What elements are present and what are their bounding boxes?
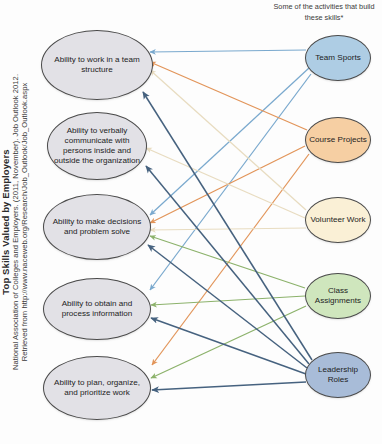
node-label: Leadership Roles bbox=[306, 365, 370, 385]
skill-node-obtain-process: Ability to obtain and process informatio… bbox=[43, 278, 151, 340]
edge-team-sports-to-obtain-process bbox=[150, 74, 311, 290]
clipped-footer-text bbox=[70, 437, 320, 444]
edge-volunteer-work-to-decisions bbox=[150, 228, 306, 230]
node-label: Team Sports bbox=[312, 53, 363, 63]
edge-leadership-roles-to-team-structure bbox=[143, 92, 312, 360]
activity-node-leadership-roles: Leadership Roles bbox=[305, 352, 371, 398]
edge-class-assignments-to-decisions bbox=[150, 236, 305, 288]
node-label: Ability to make decisions and problem so… bbox=[44, 217, 150, 237]
edge-class-assignments-to-plan-organize bbox=[151, 306, 306, 378]
node-label: Class Assignments bbox=[306, 286, 370, 306]
activity-node-class-assignments: Class Assignments bbox=[305, 273, 371, 319]
node-label: Volunteer Work bbox=[307, 215, 368, 225]
edge-leadership-roles-to-plan-organize bbox=[152, 382, 306, 390]
node-label: Ability to plan, organize, and prioritiz… bbox=[44, 378, 150, 398]
skill-node-communicate: Ability to verbally communicate with per… bbox=[47, 112, 147, 180]
edge-team-sports-to-team-structure bbox=[150, 50, 306, 52]
node-label: Ability to obtain and process informatio… bbox=[44, 299, 150, 319]
activity-node-team-sports: Team Sports bbox=[305, 35, 371, 81]
figure-canvas: Top Skills Valued by Employers National … bbox=[0, 0, 382, 444]
node-label: Course Projects bbox=[306, 135, 370, 145]
skill-node-plan-organize: Ability to plan, organize, and prioritiz… bbox=[43, 356, 151, 420]
node-label: Ability to verbally communicate with per… bbox=[48, 126, 146, 166]
edge-class-assignments-to-obtain-process bbox=[151, 296, 305, 305]
activity-node-volunteer-work: Volunteer Work bbox=[305, 197, 371, 243]
node-label: Ability to work in a team structure bbox=[42, 55, 152, 75]
activity-node-course-projects: Course Projects bbox=[305, 117, 371, 163]
edge-leadership-roles-to-communicate bbox=[146, 166, 309, 364]
edge-leadership-roles-to-obtain-process bbox=[151, 318, 306, 374]
skill-node-team-structure: Ability to work in a team structure bbox=[41, 30, 153, 100]
edge-course-projects-to-team-structure bbox=[150, 62, 307, 130]
skill-node-decisions: Ability to make decisions and problem so… bbox=[43, 194, 151, 260]
